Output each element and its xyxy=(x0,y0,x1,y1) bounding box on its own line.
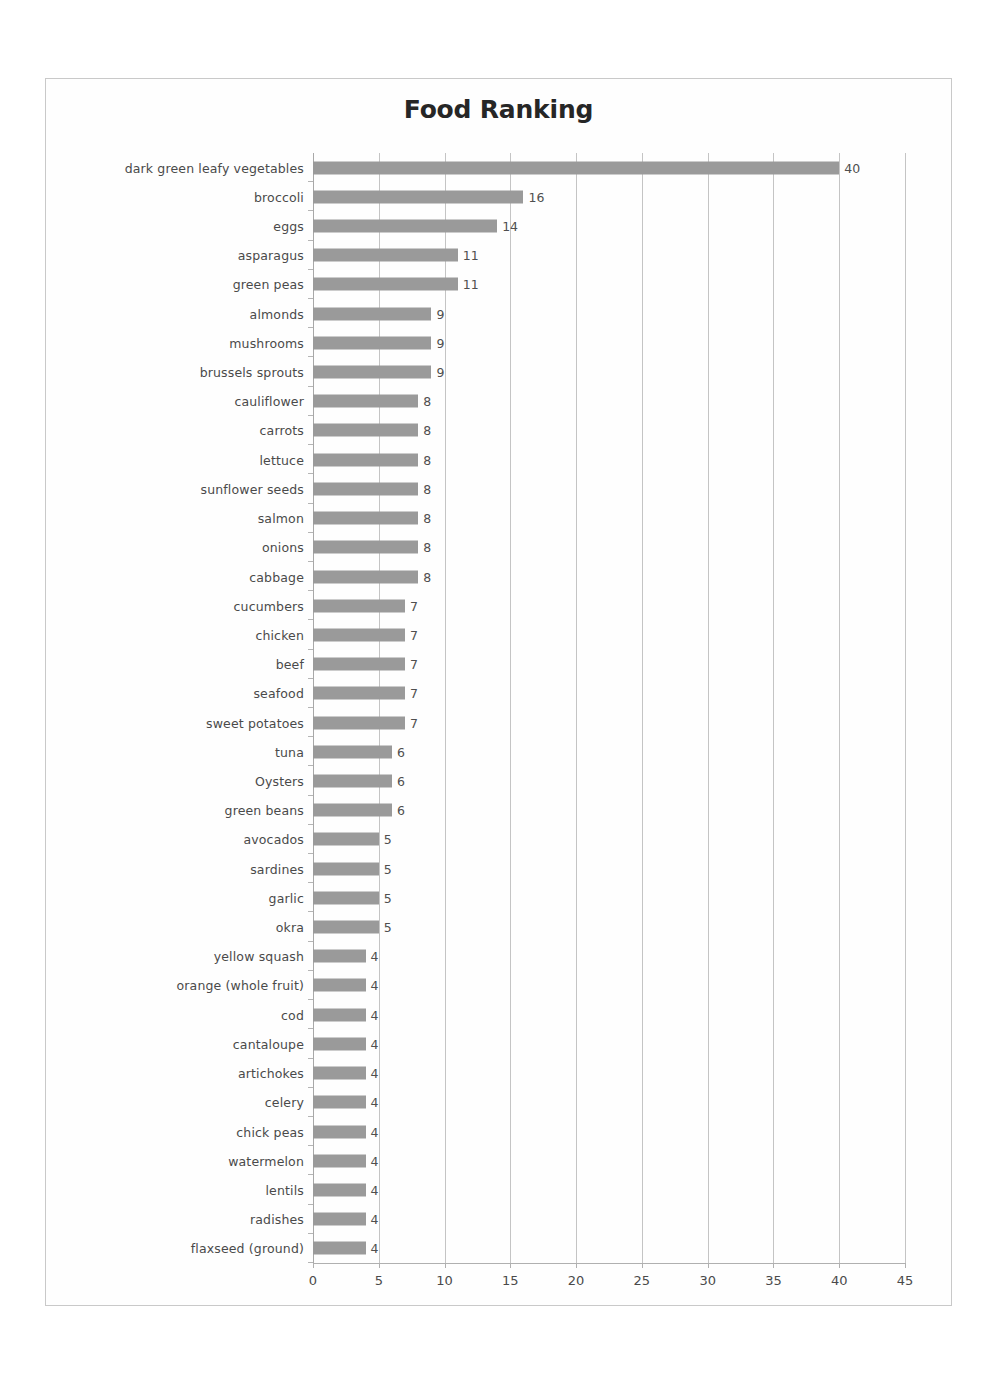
bar xyxy=(313,541,418,554)
x-axis-tick-35 xyxy=(773,1263,774,1268)
category-label: eggs xyxy=(273,219,304,234)
bar xyxy=(313,336,431,349)
x-axis-label-5: 5 xyxy=(375,1273,383,1288)
x-axis-label-45: 45 xyxy=(897,1273,914,1288)
bar-value-label: 6 xyxy=(397,744,405,759)
bar-row: garlic5 xyxy=(313,883,905,912)
x-axis-tick-25 xyxy=(642,1263,643,1268)
category-label: watermelon xyxy=(228,1153,304,1168)
bar xyxy=(313,687,405,700)
bar-value-label: 4 xyxy=(371,949,379,964)
category-label: broccoli xyxy=(254,189,304,204)
bar-row: artichokes4 xyxy=(313,1059,905,1088)
bar-value-label: 6 xyxy=(397,774,405,789)
bar-row: mushrooms9 xyxy=(313,328,905,357)
x-axis-label-15: 15 xyxy=(502,1273,519,1288)
category-label: salmon xyxy=(258,511,304,526)
bar-row: yellow squash4 xyxy=(313,942,905,971)
bar-row: orange (whole fruit)4 xyxy=(313,971,905,1000)
bar-row: asparagus11 xyxy=(313,241,905,270)
bar-value-label: 4 xyxy=(371,1241,379,1256)
bar-value-label: 4 xyxy=(371,978,379,993)
category-label: carrots xyxy=(260,423,304,438)
bar xyxy=(313,366,431,379)
bar-value-label: 9 xyxy=(436,335,444,350)
bar xyxy=(313,979,366,992)
bar-row: Oysters6 xyxy=(313,766,905,795)
category-label: lentils xyxy=(266,1182,305,1197)
category-label: beef xyxy=(276,657,304,672)
x-axis-tick-0 xyxy=(313,1263,314,1268)
plot-area: dark green leafy vegetables40broccoli16e… xyxy=(313,153,905,1263)
bar-row: brussels sprouts9 xyxy=(313,357,905,386)
bar xyxy=(313,658,405,671)
bar xyxy=(313,1096,366,1109)
bar-row: radishes4 xyxy=(313,1205,905,1234)
category-label: chicken xyxy=(255,627,304,642)
x-axis-tick-20 xyxy=(576,1263,577,1268)
bar-value-label: 5 xyxy=(384,920,392,935)
bar-row: salmon8 xyxy=(313,504,905,533)
bar-row: dark green leafy vegetables40 xyxy=(313,153,905,182)
bar-value-label: 9 xyxy=(436,365,444,380)
bar-row: green beans6 xyxy=(313,796,905,825)
x-axis-label-30: 30 xyxy=(699,1273,716,1288)
bar xyxy=(313,1037,366,1050)
category-label: green beans xyxy=(225,803,304,818)
bar-row: okra5 xyxy=(313,912,905,941)
bar-row: cucumbers7 xyxy=(313,591,905,620)
bar xyxy=(313,1242,366,1255)
bar-value-label: 4 xyxy=(371,1212,379,1227)
bar-row: tuna6 xyxy=(313,737,905,766)
category-label: orange (whole fruit) xyxy=(177,978,305,993)
bar-row: cauliflower8 xyxy=(313,387,905,416)
category-label: lettuce xyxy=(259,452,304,467)
category-label: sardines xyxy=(250,861,304,876)
x-axis-label-0: 0 xyxy=(309,1273,317,1288)
x-axis-tick-45 xyxy=(905,1263,906,1268)
bar-value-label: 7 xyxy=(410,627,418,642)
bar xyxy=(313,1154,366,1167)
bar-row: carrots8 xyxy=(313,416,905,445)
bar-row: almonds9 xyxy=(313,299,905,328)
bar-value-label: 7 xyxy=(410,715,418,730)
bar-row: sweet potatoes7 xyxy=(313,708,905,737)
bar-value-label: 8 xyxy=(423,569,431,584)
category-label: Oysters xyxy=(255,774,304,789)
category-label: tuna xyxy=(275,744,304,759)
category-label: green peas xyxy=(233,277,304,292)
category-label: sunflower seeds xyxy=(201,481,305,496)
bar-value-label: 4 xyxy=(371,1124,379,1139)
bar-value-label: 8 xyxy=(423,452,431,467)
bar-value-label: 8 xyxy=(423,481,431,496)
category-label: okra xyxy=(276,920,304,935)
bar-row: watermelon4 xyxy=(313,1146,905,1175)
x-axis-tick-5 xyxy=(379,1263,380,1268)
category-label: cabbage xyxy=(249,569,304,584)
bar-value-label: 11 xyxy=(463,277,479,292)
category-label: chick peas xyxy=(236,1124,304,1139)
x-axis-tick-15 xyxy=(510,1263,511,1268)
category-label: brussels sprouts xyxy=(200,365,304,380)
bar-row: celery4 xyxy=(313,1088,905,1117)
bar xyxy=(313,190,523,203)
category-label: avocados xyxy=(243,832,304,847)
bar xyxy=(313,891,379,904)
category-label: asparagus xyxy=(238,248,304,263)
bar-row: lentils4 xyxy=(313,1175,905,1204)
bar xyxy=(313,249,458,262)
bar-row: avocados5 xyxy=(313,825,905,854)
bar-row: sunflower seeds8 xyxy=(313,474,905,503)
bar-value-label: 5 xyxy=(384,832,392,847)
chart-title: Food Ranking xyxy=(46,95,951,124)
bar-value-label: 6 xyxy=(397,803,405,818)
bar-value-label: 8 xyxy=(423,511,431,526)
gridline-45 xyxy=(905,153,906,1263)
bar xyxy=(313,1213,366,1226)
bar-row: cabbage8 xyxy=(313,562,905,591)
bar xyxy=(313,395,418,408)
bar-row: beef7 xyxy=(313,650,905,679)
x-axis-label-35: 35 xyxy=(765,1273,782,1288)
x-axis-label-40: 40 xyxy=(831,1273,848,1288)
category-label: garlic xyxy=(269,890,304,905)
